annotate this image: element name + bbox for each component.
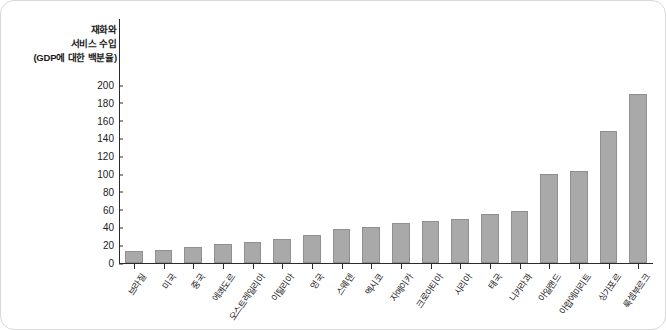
x-axis-label: 시리아 — [451, 271, 475, 298]
y-axis-tick-label: 200 — [97, 80, 119, 91]
bar — [422, 221, 440, 263]
y-axis-tick-label: 40 — [103, 222, 119, 233]
x-axis-tick-mark — [520, 264, 521, 269]
bar — [333, 229, 351, 263]
x-axis-label: 중국 — [188, 271, 208, 291]
bar — [214, 244, 232, 263]
bar — [570, 171, 588, 263]
x-axis-label: 태국 — [485, 271, 505, 291]
bar — [362, 227, 380, 263]
y-axis-tick-40: 40 — [103, 222, 119, 233]
y-axis-title-line-2: 서비스 수입 — [1, 37, 117, 51]
x-axis-tick-mark — [312, 264, 313, 269]
x-axis-tick-mark — [431, 264, 432, 269]
y-axis-title: 재화와 서비스 수입 (GDP에 대한 백분율) — [1, 23, 117, 65]
x-axis-label: 에콰도르 — [209, 271, 238, 304]
y-axis-tick-label: 20 — [103, 240, 119, 251]
x-axis-label: 크로아티아 — [412, 271, 445, 310]
x-axis-tick-mark — [253, 264, 254, 269]
x-axis-tick-mark — [401, 264, 402, 269]
y-axis-tick-80: 80 — [103, 186, 119, 197]
x-axis-tick-mark — [609, 264, 610, 269]
bar — [511, 211, 529, 264]
x-axis-tick-mark — [164, 264, 165, 269]
bar — [600, 131, 618, 263]
x-axis-tick-mark — [282, 264, 283, 269]
y-axis-tick-label: 60 — [103, 204, 119, 215]
x-axis-line — [119, 263, 653, 264]
x-axis-label: 니카라과 — [506, 271, 535, 304]
x-axis-tick-mark — [193, 264, 194, 269]
y-axis-tick-140: 140 — [97, 133, 119, 144]
x-axis-tick-mark — [638, 264, 639, 269]
x-axis-label: 멕시코 — [362, 271, 386, 298]
bar — [244, 242, 262, 263]
y-axis-tick-label: 160 — [97, 115, 119, 126]
bar — [540, 174, 558, 263]
bar-series — [119, 85, 653, 263]
y-axis-tick-180: 180 — [97, 97, 119, 108]
x-axis-label: 아일랜드 — [535, 271, 564, 304]
x-axis-label: 영국 — [307, 271, 327, 291]
y-axis-tick-120: 120 — [97, 151, 119, 162]
y-axis-tick-100: 100 — [97, 169, 119, 180]
y-axis-title-line-1: 재화와 — [1, 23, 117, 37]
y-axis-tick-200: 200 — [97, 80, 119, 91]
x-axis-label: 미국 — [159, 271, 179, 291]
bar — [481, 214, 499, 263]
bar — [451, 219, 469, 264]
bar — [303, 235, 321, 263]
bar — [125, 251, 143, 263]
x-axis-tick-mark — [342, 264, 343, 269]
y-axis-tick-20: 20 — [103, 240, 119, 251]
y-axis-tick-label: 100 — [97, 169, 119, 180]
chart-figure-frame: 재화와 서비스 수입 (GDP에 대한 백분율) 020406080100120… — [0, 0, 666, 330]
x-axis-tick-mark — [490, 264, 491, 269]
y-axis-tick-label: 180 — [97, 97, 119, 108]
x-axis-tick-mark — [134, 264, 135, 269]
bar — [392, 223, 410, 263]
x-axis-tick-mark — [460, 264, 461, 269]
y-axis-tick-160: 160 — [97, 115, 119, 126]
y-axis-tick-0: 0 — [108, 258, 119, 269]
y-axis-tick-label: 120 — [97, 151, 119, 162]
y-axis-tick-60: 60 — [103, 204, 119, 215]
bar — [629, 94, 647, 263]
y-axis-tick-mark — [119, 263, 123, 264]
bar — [155, 250, 173, 263]
x-axis-tick-mark — [371, 264, 372, 269]
x-axis-tick-mark — [223, 264, 224, 269]
y-axis-tick-label: 0 — [108, 258, 119, 269]
x-axis-label: 브라질 — [124, 271, 148, 298]
x-axis-label: 싱가포르 — [595, 271, 624, 304]
x-axis-label: 룩셈부르크 — [620, 271, 653, 310]
y-axis-tick-label: 140 — [97, 133, 119, 144]
x-axis-label: 이탈리아 — [268, 271, 297, 304]
x-axis-tick-mark — [549, 264, 550, 269]
bar — [273, 239, 291, 263]
bar — [184, 247, 202, 263]
x-axis-label: 스웨덴 — [332, 271, 356, 298]
x-axis-tick-mark — [579, 264, 580, 269]
y-axis-tick-label: 80 — [103, 186, 119, 197]
x-axis-label: 자메이카 — [387, 271, 416, 304]
y-axis-title-line-3: (GDP에 대한 백분율) — [1, 51, 117, 65]
